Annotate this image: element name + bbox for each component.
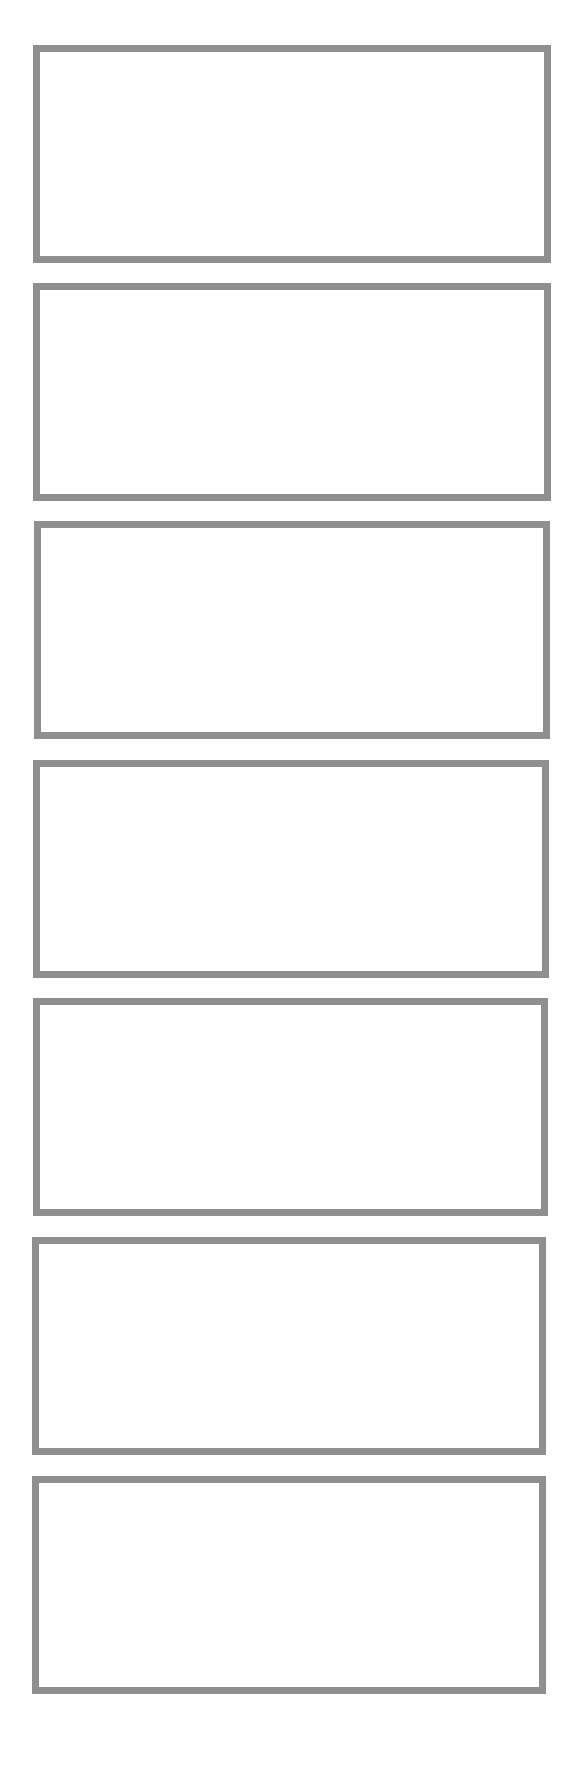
box-6-content: [39, 1244, 539, 1448]
empty-box-3: [34, 521, 550, 739]
empty-box-2: [33, 283, 551, 501]
empty-box-7: [32, 1476, 546, 1694]
empty-box-5: [33, 998, 548, 1216]
empty-box-4: [33, 760, 549, 978]
box-5-content: [40, 1005, 541, 1209]
empty-box-1: [33, 45, 551, 263]
box-7-content: [39, 1483, 539, 1687]
box-4-content: [40, 767, 542, 971]
box-1-content: [40, 52, 544, 256]
empty-box-6: [32, 1237, 546, 1455]
scanned-page: [0, 0, 579, 1776]
box-3-content: [41, 528, 543, 732]
box-2-content: [40, 290, 544, 494]
